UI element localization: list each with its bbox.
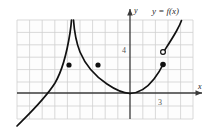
x-axis-label: x (198, 83, 202, 91)
filled-point-left (66, 62, 71, 67)
plot-canvas (0, 0, 213, 128)
x-axis-arrow (196, 90, 203, 96)
y-axis-tick-label-4: 4 (122, 47, 126, 55)
function-graph-figure: y x y = f(x) 4 3 (0, 0, 213, 128)
function-equation-label: y = f(x) (152, 7, 179, 16)
filled-point-middle (95, 62, 100, 67)
x-axis-tick-label-3: 3 (158, 99, 162, 107)
open-point-discontinuity (161, 50, 166, 55)
filled-point-discontinuity (160, 62, 166, 68)
y-axis-label: y (134, 7, 138, 15)
y-axis-arrow (127, 9, 133, 16)
